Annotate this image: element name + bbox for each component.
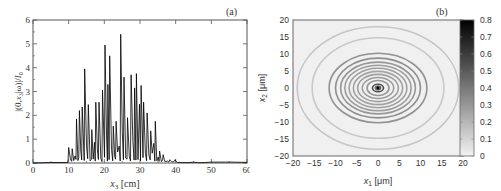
y-tick-label: −20 [275, 151, 290, 161]
colorbar-tick-label: 0.8 [480, 15, 492, 25]
colorbar-tick-label: 0.1 [480, 134, 492, 144]
data-line-a [33, 34, 247, 163]
colorbar-tick-label: 0.3 [480, 100, 492, 110]
y-tick-label: 20 [280, 15, 290, 25]
y-tick-label: −15 [275, 134, 290, 144]
x-tick-label: −10 [328, 158, 343, 168]
x-tick-label: 10 [64, 165, 74, 175]
y-tick-label: 0 [26, 158, 31, 168]
center-peak [376, 86, 380, 90]
colorbar-tick-label: 0.5 [480, 66, 492, 76]
y-tick-label: 15 [280, 32, 290, 42]
colorbar-tick-label: 0.4 [480, 83, 492, 93]
x-tick-label: 0 [376, 158, 381, 168]
y-axis-label-a: |(0,x3|ω)|/I0 [13, 72, 24, 112]
x-tick-label: 5 [397, 158, 402, 168]
line-chart-a: 01020304050600123456 (a) x3 [cm] |(0,x3|… [0, 0, 250, 191]
x-tick-label: 60 [243, 165, 251, 175]
x-tick-label: 0 [31, 165, 36, 175]
colorbar-tick-label: 0.7 [480, 32, 492, 42]
x-tick-label: 10 [416, 158, 426, 168]
heatmap-chart-b: −20−15−10−505101520−20−15−10−505101520 0… [250, 0, 501, 191]
y-tick-label: −5 [279, 100, 289, 110]
y-tick-label: 5 [284, 66, 289, 76]
x-tick-label: 20 [100, 165, 110, 175]
y-tick-label: 6 [26, 15, 31, 25]
y-tick-label: 0 [284, 83, 289, 93]
y-tick-label: 1 [26, 134, 31, 144]
colorbar-tick-label: 0.6 [480, 49, 492, 59]
x-tick-label: 30 [136, 165, 146, 175]
panel-b: −20−15−10−505101520−20−15−10−505101520 0… [250, 0, 501, 191]
colorbar-tick-label: 0 [480, 151, 485, 161]
panel-a: 01020304050600123456 (a) x3 [cm] |(0,x3|… [0, 0, 250, 191]
x-tick-label: 15 [437, 158, 447, 168]
y-axis-label-b: x2 [μm] [257, 74, 268, 103]
y-tick-label: −10 [275, 117, 290, 127]
y-tick-label: 5 [26, 39, 31, 49]
x-axis-label-b: x1 [μm] [363, 176, 392, 187]
y-tick-label: 3 [26, 87, 31, 97]
colorbar-tick-label: 0.2 [480, 117, 492, 127]
y-tick-label: 10 [280, 49, 290, 59]
x-tick-label: 40 [171, 165, 181, 175]
x-tick-label: 20 [458, 158, 468, 168]
panel-label-b: (b) [436, 6, 448, 18]
x-tick-label: 50 [207, 165, 217, 175]
y-tick-label: 2 [26, 110, 31, 120]
x-tick-label: −15 [307, 158, 322, 168]
y-tick-label: 4 [26, 63, 31, 73]
x-tick-label: −5 [352, 158, 362, 168]
panel-label-a: (a) [226, 6, 237, 18]
x-axis-label-a: x3 [cm] [109, 178, 139, 191]
